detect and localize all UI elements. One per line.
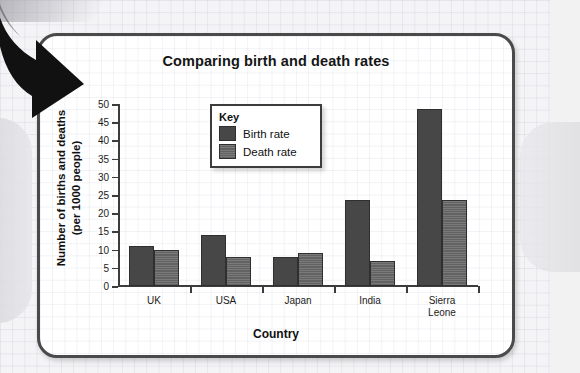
x-label-japan: Japan <box>263 295 333 307</box>
bar-uk-birth-rate <box>129 246 154 286</box>
legend-label-birth-rate: Birth rate <box>243 128 290 140</box>
bar-sierra-leone-birth-rate <box>417 109 442 286</box>
bar-japan-death-rate <box>298 253 323 286</box>
background-smudge <box>0 0 130 22</box>
legend-label-death-rate: Death rate <box>243 146 297 158</box>
y-tick-label-10: 10 <box>98 244 109 255</box>
legend-item-birth-rate: Birth rate <box>219 126 313 141</box>
y-tick-label-5: 5 <box>103 262 109 273</box>
y-tick-25 <box>112 195 118 197</box>
y-tick-label-15: 15 <box>98 226 109 237</box>
legend-swatch-birth-rate <box>219 126 236 141</box>
legend-title: Key <box>219 111 313 123</box>
y-tick-label-25: 25 <box>98 190 109 201</box>
y-tick-45 <box>112 122 118 124</box>
x-label-india: India <box>335 295 405 307</box>
x-tick-3 <box>406 286 408 293</box>
legend-key-box: Key Birth rate Death rate <box>210 104 322 168</box>
chart-title: Comparing birth and death rates <box>40 53 512 69</box>
chart-card: Comparing birth and death rates Number o… <box>37 33 515 358</box>
background-shape-left <box>0 118 32 323</box>
y-tick-10 <box>112 250 118 252</box>
x-tick-2 <box>334 286 336 293</box>
bar-usa-birth-rate <box>201 235 226 286</box>
legend-swatch-death-rate <box>219 144 236 159</box>
bar-sierra-leone-death-rate <box>442 200 467 286</box>
y-tick-label-45: 45 <box>98 117 109 128</box>
y-tick-35 <box>112 159 118 161</box>
y-tick-label-30: 30 <box>98 171 109 182</box>
y-tick-label-35: 35 <box>98 153 109 164</box>
y-tick-30 <box>112 177 118 179</box>
bar-japan-birth-rate <box>273 257 298 286</box>
bar-india-death-rate <box>370 261 395 286</box>
background-shape-right <box>520 122 580 272</box>
y-tick-15 <box>112 231 118 233</box>
bar-uk-death-rate <box>154 250 179 286</box>
y-tick-label-0: 0 <box>103 281 109 292</box>
y-axis-line <box>118 104 120 286</box>
bar-usa-death-rate <box>226 257 251 286</box>
y-tick-5 <box>112 268 118 270</box>
x-label-uk: UK <box>119 295 189 307</box>
y-tick-50 <box>112 104 118 106</box>
bar-india-birth-rate <box>345 200 370 286</box>
y-tick-label-20: 20 <box>98 208 109 219</box>
y-axis-title: Number of births and deaths (per 1000 pe… <box>54 33 84 88</box>
x-axis-title: Country <box>40 327 512 341</box>
y-axis-title-text: Number of births and deaths (per 1000 pe… <box>54 88 84 288</box>
x-label-sierra-leone: Sierra Leone <box>407 295 477 319</box>
y-tick-0 <box>112 286 118 288</box>
x-tick-4 <box>478 286 480 293</box>
x-label-usa: USA <box>191 295 261 307</box>
y-tick-label-50: 50 <box>98 99 109 110</box>
x-tick-0 <box>190 286 192 293</box>
y-tick-label-40: 40 <box>98 135 109 146</box>
legend-item-death-rate: Death rate <box>219 144 313 159</box>
y-tick-20 <box>112 213 118 215</box>
y-tick-40 <box>112 140 118 142</box>
x-tick-1 <box>262 286 264 293</box>
